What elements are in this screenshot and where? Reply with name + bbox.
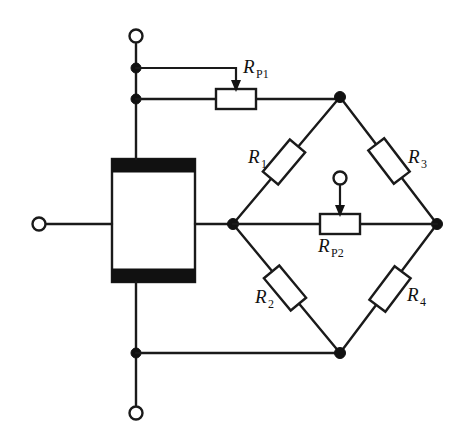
terminal-left[interactable] [33,218,46,231]
node-bridge-bottom [335,348,346,359]
bottom-bus [130,282,143,420]
label-r2-subscript: 2 [268,297,274,311]
label-r1: R [247,146,260,167]
block-top-bar [112,159,195,172]
top-bus [130,30,143,160]
central-block [112,159,195,282]
circuit-diagram: R P1 [0,0,452,448]
resistor-body-r1[interactable] [263,139,305,184]
label-r4: R [406,284,419,305]
wiper-rp2-terminal[interactable] [334,172,347,185]
label-rp2-subscript: P2 [331,246,344,260]
left-branch [33,218,113,231]
block-bottom-bar [112,269,195,282]
terminal-top[interactable] [130,30,143,43]
label-rp1-subscript: P1 [256,67,269,81]
label-r2: R [254,286,267,307]
resistor-body-r3[interactable] [368,138,409,184]
label-r3-subscript: 3 [421,157,427,171]
node-bridge-top [335,92,346,103]
rp1-branch: R P1 [136,56,340,109]
label-r4-subscript: 4 [420,295,426,309]
label-r1-subscript: 1 [261,157,267,171]
terminal-bottom[interactable] [130,407,143,420]
resistor-r4[interactable] [369,266,410,312]
label-r3: R [407,146,420,167]
circuit-svg: R P1 [0,0,452,448]
resistor-r3[interactable] [368,138,409,184]
label-rp1: R [242,56,255,77]
wire-rp1-wiper [136,68,236,80]
block-body [112,159,195,282]
resistor-r1[interactable] [263,139,305,184]
resistor-body-r4[interactable] [369,266,410,312]
label-rp2: R [317,235,330,256]
